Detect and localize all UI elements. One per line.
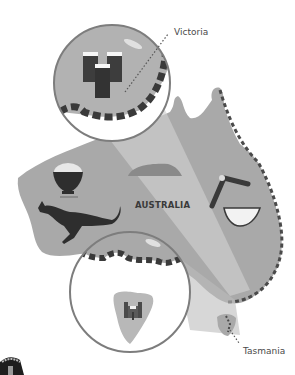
tasmania-label: Tasmania [243, 346, 285, 356]
map-svg [0, 0, 295, 375]
australia-label: AUSTRALIA [135, 200, 190, 210]
partial-figure-icon [0, 357, 24, 375]
victoria-label: Victoria [174, 27, 208, 37]
australia-map-illustration: Victoria AUSTRALIA Tasmania [0, 0, 295, 375]
